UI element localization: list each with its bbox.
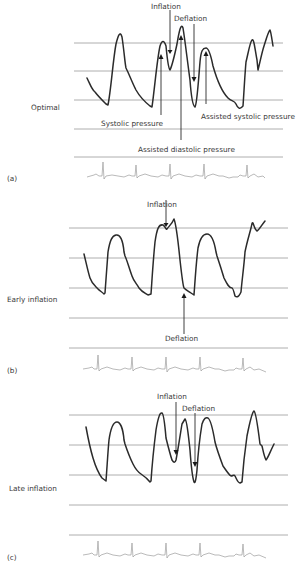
panel-tag-c: (c) bbox=[7, 553, 17, 562]
assisted-systolic-arrow-a bbox=[204, 51, 209, 104]
inflation-arrow-a bbox=[168, 10, 173, 54]
deflation-arrow-b bbox=[182, 293, 187, 334]
ecg-trace-b bbox=[83, 355, 266, 372]
panel-b: Inflation Deflation Early inflation (b) bbox=[7, 200, 288, 375]
panel-tag-b: (b) bbox=[7, 366, 17, 375]
inflation-label-b: Inflation bbox=[147, 200, 177, 209]
arterial-waveform-c bbox=[86, 411, 274, 483]
inflation-label-a: Inflation bbox=[151, 2, 181, 11]
condition-label-a: Optimal bbox=[31, 103, 60, 112]
assisted-diastolic-arrow-a bbox=[179, 35, 184, 140]
assisted-diastolic-pressure-label: Assisted diastolic pressure bbox=[138, 145, 235, 154]
iabp-timing-figure: Inflation Deflation Systolic pressure As… bbox=[0, 0, 302, 568]
panel-c: Inflation Deflation Late inflation (c) bbox=[7, 392, 288, 562]
deflation-arrow-c bbox=[193, 413, 198, 467]
inflation-label-c: Inflation bbox=[157, 392, 187, 401]
gridlines-c bbox=[69, 415, 288, 535]
condition-label-b: Early inflation bbox=[7, 295, 57, 304]
assisted-systolic-pressure-label: Assisted systolic pressure bbox=[201, 112, 295, 121]
deflation-label-b: Deflation bbox=[165, 334, 198, 343]
gridlines-a bbox=[74, 43, 283, 157]
deflation-arrow-a bbox=[192, 24, 197, 82]
ecg-trace-c bbox=[83, 541, 266, 558]
deflation-label-a: Deflation bbox=[174, 14, 207, 23]
condition-label-c: Late inflation bbox=[9, 484, 57, 493]
systolic-pressure-label: Systolic pressure bbox=[101, 119, 163, 128]
deflation-label-c: Deflation bbox=[182, 404, 215, 413]
systolic-arrow-a bbox=[159, 54, 164, 115]
panel-a: Inflation Deflation Systolic pressure As… bbox=[7, 2, 295, 183]
panel-tag-a: (a) bbox=[7, 174, 17, 183]
ecg-trace-a bbox=[87, 162, 265, 179]
